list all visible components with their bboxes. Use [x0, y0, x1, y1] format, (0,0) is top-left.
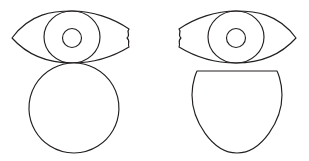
figure-canvas: Two eye-and-circle line drawings Black o… — [0, 0, 309, 161]
body-circle[interactable] — [29, 63, 119, 153]
